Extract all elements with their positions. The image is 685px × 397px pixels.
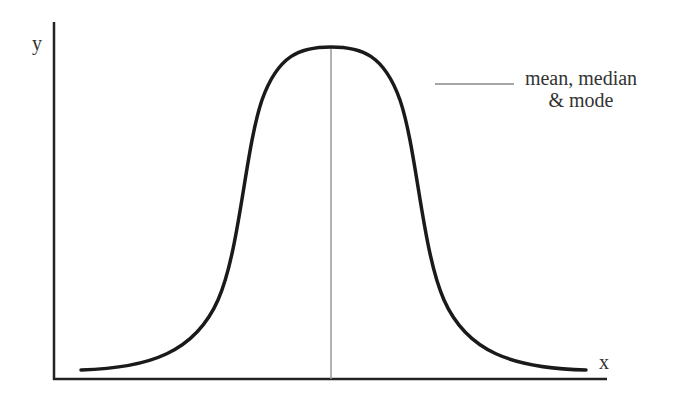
bell-curve-diagram — [0, 0, 685, 397]
y-axis-label: y — [32, 33, 42, 53]
legend-label: mean, median & mode — [516, 67, 646, 111]
legend-label-line1: mean, median — [516, 67, 646, 89]
normal-distribution-curve — [81, 47, 586, 370]
legend-label-line2: & mode — [516, 89, 646, 111]
x-axis-label: x — [599, 352, 609, 372]
